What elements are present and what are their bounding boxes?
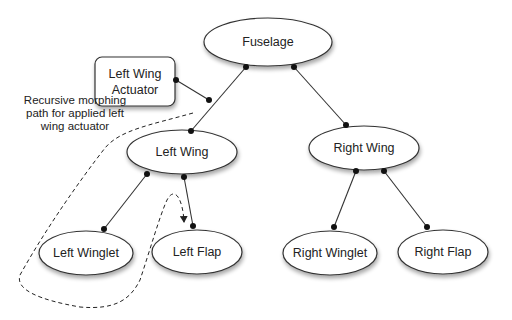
fuselage-label: Fuselage — [242, 35, 293, 49]
right-winglet-label: Right Winglet — [293, 246, 368, 260]
annotation-line2: path for applied left — [26, 107, 125, 119]
node-left-wing[interactable]: Left Wing — [127, 130, 237, 174]
edge-left-wing-left-winglet — [104, 174, 147, 229]
left-winglet-label: Left Winglet — [53, 246, 120, 260]
edge-right-wing-right-flap — [384, 171, 427, 227]
actuator-label-line1: Left Wing — [109, 67, 162, 81]
annotation-line3: wing actuator — [40, 120, 110, 132]
left-wing-label: Left Wing — [156, 145, 209, 159]
edge-right-wing-right-winglet — [334, 171, 356, 227]
right-flap-label: Right Flap — [415, 245, 472, 259]
annotation: Recursive morphing path for applied left… — [24, 94, 126, 132]
edge-actuator-link — [176, 80, 209, 100]
annotation-line1: Recursive morphing — [24, 94, 126, 106]
node-right-winglet[interactable]: Right Winglet — [283, 231, 377, 275]
node-left-winglet[interactable]: Left Winglet — [39, 231, 133, 275]
diagram-canvas: Left Wing Actuator Fuselage Left Wing Ri… — [0, 0, 512, 320]
edge-fuselage-right-wing — [294, 67, 346, 125]
node-right-wing[interactable]: Right Wing — [309, 126, 419, 170]
right-wing-label: Right Wing — [333, 141, 394, 155]
node-right-flap[interactable]: Right Flap — [398, 230, 488, 274]
left-flap-label: Left Flap — [173, 245, 222, 259]
node-left-flap[interactable]: Left Flap — [152, 230, 242, 274]
edge-left-wing-left-flap — [184, 177, 193, 226]
node-fuselage[interactable]: Fuselage — [204, 18, 332, 66]
edge-fuselage-left-wing — [191, 67, 246, 131]
